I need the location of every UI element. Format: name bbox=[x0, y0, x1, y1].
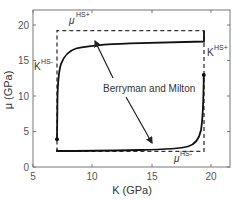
k-hs-minus-sup: HS- bbox=[41, 58, 54, 65]
y-axis-label: μ (GPa) bbox=[2, 71, 14, 110]
x-tick-label: 5 bbox=[30, 171, 36, 182]
mu-hs-minus-sup: HS- bbox=[180, 150, 193, 157]
upper-right-marker bbox=[202, 73, 206, 77]
annotation-arrow-lower bbox=[126, 97, 152, 143]
mu-hs-minus-label: μ bbox=[173, 153, 180, 164]
chart: 5 10 15 20 0 5 10 15 20 K (GPa) μ (GPa) … bbox=[0, 0, 238, 200]
lower-left-marker bbox=[55, 137, 59, 141]
k-hs-plus-label: K bbox=[207, 47, 214, 58]
x-tick-label: 10 bbox=[86, 171, 98, 182]
k-hs-plus-sup: HS+ bbox=[214, 44, 228, 51]
y-tick-label: 5 bbox=[23, 126, 29, 137]
x-tick-label: 20 bbox=[205, 171, 217, 182]
y-tick-label: 15 bbox=[18, 55, 30, 66]
y-ticks bbox=[33, 25, 230, 167]
k-hs-minus-label: K bbox=[34, 61, 41, 72]
x-axis-label: K (GPa) bbox=[112, 184, 152, 196]
berryman-milton-label: Berryman and Milton bbox=[103, 83, 195, 94]
y-tick-label: 20 bbox=[18, 20, 30, 31]
y-tick-label: 10 bbox=[18, 91, 30, 102]
annotation-arrow-upper bbox=[95, 41, 113, 78]
x-tick-label: 15 bbox=[146, 171, 158, 182]
y-tick-label: 0 bbox=[23, 162, 29, 173]
mu-hs-plus-label: μ bbox=[68, 15, 75, 26]
mu-hs-plus-sup: HS+ bbox=[76, 11, 90, 18]
